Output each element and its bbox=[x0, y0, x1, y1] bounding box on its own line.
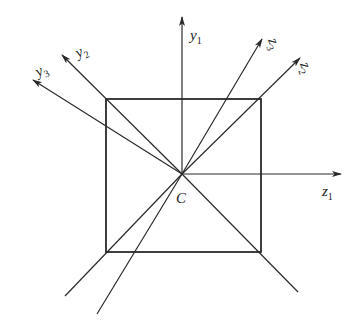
axis-y2 bbox=[62, 55, 182, 174]
label-z3: z3 bbox=[262, 35, 284, 53]
axis-z3-extension bbox=[97, 174, 182, 314]
axis-y2-extension bbox=[182, 174, 298, 292]
label-y2: y2 bbox=[71, 41, 91, 64]
coordinate-axes-diagram: y1 y2 y3 z1 z2 z3 C bbox=[0, 0, 359, 330]
label-y1: y1 bbox=[188, 27, 202, 46]
label-center-c: C bbox=[176, 190, 187, 206]
axis-z2-extension bbox=[65, 174, 182, 296]
axis-y3 bbox=[33, 80, 182, 174]
label-z1: z1 bbox=[321, 183, 333, 202]
